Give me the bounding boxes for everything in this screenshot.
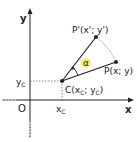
p-label: P(x; y)	[104, 66, 133, 76]
c-label: C(xC; yC)	[65, 85, 103, 96]
y-axis-label: y	[20, 13, 27, 24]
point-p-prime	[94, 35, 98, 39]
rotation-arc	[96, 37, 116, 62]
y-axis-arrow-icon	[28, 8, 33, 14]
angle-label: α	[83, 58, 89, 68]
rotation-diagram: α y x O P'(x'; y') P(x; y) C(xC; yC) yC …	[0, 0, 137, 142]
p-prime-label: P'(x'; y')	[72, 25, 108, 35]
yc-tick-label: yC	[16, 77, 26, 88]
point-c	[60, 79, 64, 83]
x-axis-label: x	[125, 104, 132, 115]
point-p	[114, 60, 118, 64]
origin-label: O	[18, 103, 26, 114]
x-axis-arrow-icon	[128, 98, 134, 103]
xc-tick-label: xC	[56, 104, 66, 115]
